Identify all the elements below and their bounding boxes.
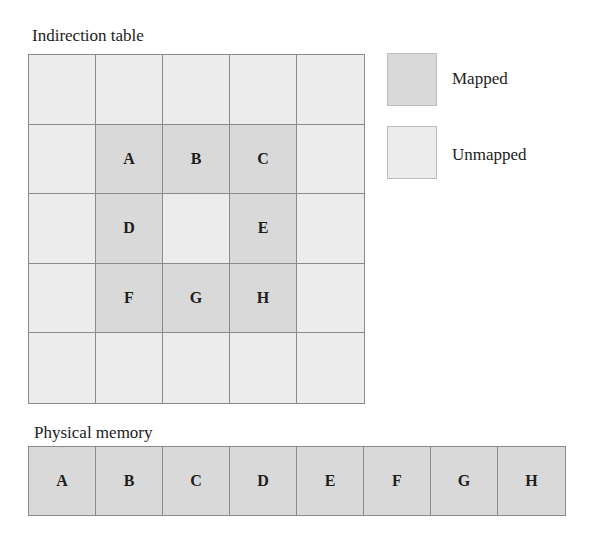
table-cell-unmapped [29, 194, 96, 264]
memory-block: G [431, 447, 498, 515]
physical-memory-bar: ABCDEFGH [28, 446, 566, 516]
memory-block: F [364, 447, 431, 515]
table-cell-unmapped [297, 125, 364, 195]
table-cell-unmapped [29, 125, 96, 195]
legend-swatch-mapped [387, 53, 437, 106]
table-cell-unmapped [297, 194, 364, 264]
memory-block: E [297, 447, 364, 515]
indirection-table-grid: ABCDEFGH [28, 54, 365, 404]
table-cell-mapped: E [230, 194, 297, 264]
memory-block: H [498, 447, 565, 515]
table-cell-mapped: F [96, 264, 163, 334]
legend-label-unmapped: Unmapped [452, 145, 527, 165]
table-cell-mapped: H [230, 264, 297, 334]
table-cell-mapped: C [230, 125, 297, 195]
table-cell-unmapped [163, 333, 230, 403]
table-cell-unmapped [297, 264, 364, 334]
table-cell-unmapped [96, 55, 163, 125]
table-cell-unmapped [29, 333, 96, 403]
indirection-table-title: Indirection table [32, 26, 144, 46]
memory-block: A [29, 447, 96, 515]
memory-block: B [96, 447, 163, 515]
physical-memory-title: Physical memory [34, 423, 153, 443]
memory-block: D [230, 447, 297, 515]
table-cell-unmapped [230, 55, 297, 125]
table-cell-mapped: B [163, 125, 230, 195]
table-cell-unmapped [230, 333, 297, 403]
legend-label-mapped: Mapped [452, 69, 508, 89]
table-cell-unmapped [163, 55, 230, 125]
memory-block: C [163, 447, 230, 515]
table-cell-unmapped [297, 55, 364, 125]
table-cell-mapped: G [163, 264, 230, 334]
table-cell-unmapped [297, 333, 364, 403]
table-cell-unmapped [29, 264, 96, 334]
table-cell-mapped: A [96, 125, 163, 195]
table-cell-unmapped [29, 55, 96, 125]
legend-swatch-unmapped [387, 126, 437, 179]
table-cell-unmapped [96, 333, 163, 403]
table-cell-mapped: D [96, 194, 163, 264]
table-cell-unmapped [163, 194, 230, 264]
